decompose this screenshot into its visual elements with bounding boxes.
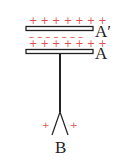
charge-leaf-right: + [70,120,78,130]
plate-a-prime [26,27,93,31]
label-b: B [55,139,66,156]
plate-a [26,50,93,54]
leaf-right [60,112,68,135]
label-a-prime: A′ [95,23,111,40]
charge-leaf-left: + [42,120,50,130]
label-a: A [95,45,107,62]
leaf-left [52,112,60,135]
